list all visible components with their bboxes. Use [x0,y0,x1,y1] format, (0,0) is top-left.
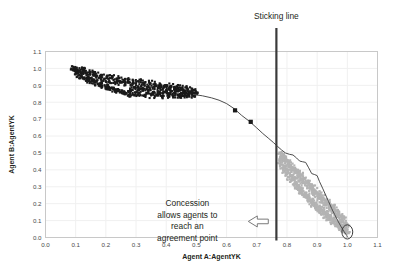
data-point [105,86,107,88]
data-point [78,67,80,69]
x-tick-label: 0.0 [41,241,50,248]
data-point [158,85,160,87]
data-point [150,85,152,87]
data-point [287,176,289,178]
data-point [115,89,117,91]
data-point [187,88,189,90]
data-point [301,175,303,177]
data-point [329,214,331,216]
data-point [79,77,81,79]
data-point [87,74,89,76]
data-point [309,180,311,182]
data-point [294,183,296,185]
data-point [195,90,197,92]
x-tick-label: 0.9 [313,241,322,248]
data-point [134,86,136,88]
data-point [136,90,138,92]
data-point [325,213,327,215]
concession-callout-line: allows agents to [157,210,217,220]
data-point [134,88,136,90]
data-point [107,88,109,90]
data-point [74,73,76,75]
data-point [144,85,146,87]
data-point [185,90,187,92]
data-point [158,90,160,92]
data-point [177,84,179,86]
data-point [138,83,140,85]
data-point [127,95,129,97]
data-point [279,153,281,155]
data-point [316,187,318,189]
y-tick-label: 1.0 [33,65,42,72]
x-tick-label: 0.1 [71,241,80,248]
data-point [99,85,101,87]
data-point [75,68,77,70]
data-point [345,220,347,222]
data-point [116,82,118,84]
data-point [336,209,338,211]
data-point [347,226,349,228]
data-point [320,206,322,208]
data-point [328,207,330,209]
concession-callout-line: Concession [165,198,209,208]
data-point [312,185,314,187]
data-point [315,208,317,210]
data-point [141,90,143,92]
data-point [304,178,306,180]
data-point [333,204,335,206]
data-point [289,171,291,173]
data-point [303,196,305,198]
data-point [146,84,148,86]
data-point [305,181,307,183]
data-point [281,158,283,160]
data-point [112,79,114,81]
y-tick-label: 0.0 [33,234,42,241]
data-point [124,84,126,86]
data-point [341,221,343,223]
data-point [279,160,281,162]
data-point [317,209,319,211]
data-point [87,76,89,78]
data-point [104,84,106,86]
data-point [308,187,310,189]
data-point [77,75,79,77]
data-point [281,161,283,163]
data-point [139,88,141,90]
data-point [123,81,125,83]
data-point [333,223,335,225]
data-point [125,82,127,84]
data-point [291,177,293,179]
data-point [169,93,171,95]
data-point [154,88,156,90]
highlighted-offer-marker [249,120,253,124]
data-point [132,79,134,81]
data-point [321,213,323,215]
data-point [289,161,291,163]
data-point [111,91,113,93]
data-point [179,86,181,88]
highlighted-offer-marker [233,108,237,112]
y-tick-label: 1.1 [33,48,42,55]
data-point [323,213,325,215]
data-point [165,90,167,92]
data-point [320,201,322,203]
data-point [88,71,90,73]
data-point [96,75,98,77]
y-tick-label: 0.9 [33,82,42,89]
data-point [294,187,296,189]
data-point [160,86,162,88]
data-point [72,69,74,71]
data-point [307,200,309,202]
data-point [296,170,298,172]
data-point [335,223,337,225]
data-point [110,82,112,84]
data-point [128,82,130,84]
data-point [285,164,287,166]
data-point [299,172,301,174]
data-point [322,204,324,206]
y-tick-label: 0.1 [33,217,42,224]
x-tick-label: 0.7 [252,241,261,248]
data-point [117,75,119,77]
x-tick-label: 0.8 [283,241,292,248]
data-point [302,172,304,174]
